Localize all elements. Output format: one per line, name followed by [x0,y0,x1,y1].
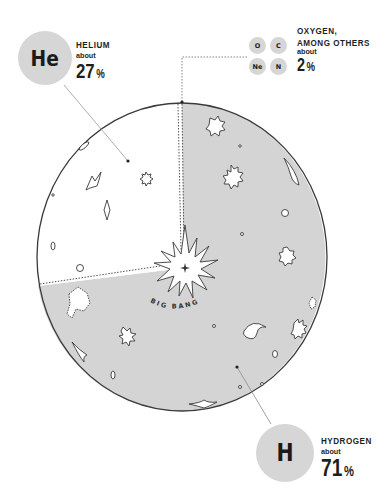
tiny-dot-icon [261,383,264,386]
hydrogen-name: HYDROGEN [321,436,372,446]
tiny-dot-icon [213,325,216,328]
nitrogen-symbol-badge: N [270,58,287,75]
tiny-dot-icon [52,194,54,196]
tiny-dot-icon [239,386,242,389]
helium-symbol-badge: He [18,31,72,85]
helium-name: HELIUM [76,40,110,50]
others-percentage: 2% [297,56,366,74]
neon-symbol-badge: Ne [249,58,266,75]
spiky-galaxy-icon [140,172,153,186]
small-galaxy-icon [273,351,278,358]
oxygen-symbol-badge: O [249,37,266,54]
small-galaxy-icon [51,242,55,250]
others-leader-line [182,57,247,101]
hydrogen-percentage: 71% [321,456,369,480]
hydrogen-leader-dot [235,365,238,368]
helium-label: HELIUM about 27% [76,40,116,81]
others-name-line2: AMONG OTHERS [297,38,370,48]
small-galaxy-icon [111,371,115,379]
small-galaxy-icon [282,210,289,217]
others-about: about [297,48,374,56]
helium-percentage: 27% [76,60,108,81]
others-name-line1: OXYGEN, [297,26,370,36]
helium-leader-dot [126,159,129,162]
hydrogen-symbol-badge: H [256,424,314,482]
helium-slice [35,103,183,286]
tiny-dot-icon [241,233,244,236]
others-leader-dot [180,100,183,103]
others-label: OXYGEN, AMONG OTHERS about 2% [297,26,383,74]
hydrogen-symbol: H [276,439,293,467]
helium-symbol: He [31,46,59,71]
small-galaxy-icon [77,265,84,272]
tiny-dot-icon [239,145,241,147]
carbon-symbol-badge: C [270,37,287,54]
hydrogen-label: HYDROGEN about 71% [321,436,381,480]
